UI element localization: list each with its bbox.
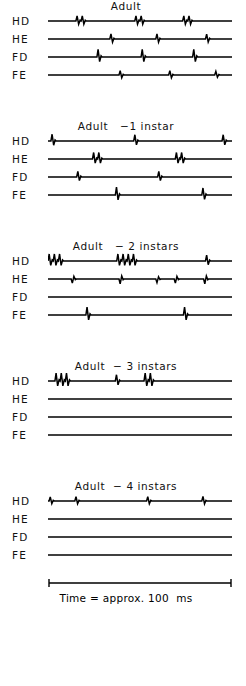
trace-row-fe: FE	[0, 306, 246, 324]
trace-waveform	[48, 426, 232, 444]
trace-waveform	[48, 48, 232, 66]
trace-label: HE	[12, 154, 29, 165]
trace-label: HE	[12, 34, 29, 45]
trace-row-fd: FD	[0, 528, 246, 546]
panel-2: Adult − 2 instarsHDHEFDFE	[0, 240, 246, 324]
trace-row-fe: FE	[0, 546, 246, 564]
trace-waveform	[48, 168, 232, 186]
trace-label: FD	[12, 292, 28, 303]
trace-group: HDHEFDFE	[0, 132, 246, 204]
panel-spacer	[0, 84, 246, 120]
trace-waveform	[48, 66, 232, 84]
trace-label: FD	[12, 172, 28, 183]
trace-waveform	[48, 390, 232, 408]
trace-row-hd: HD	[0, 132, 246, 150]
panel-title: Adult	[0, 0, 246, 12]
trace-group: HDHEFDFE	[0, 12, 246, 84]
trace-label: HD	[12, 16, 30, 27]
trace-row-hd: HD	[0, 252, 246, 270]
panel-spacer	[0, 204, 246, 240]
trace-row-he: HE	[0, 30, 246, 48]
trace-label: FD	[12, 412, 28, 423]
trace-waveform	[48, 288, 232, 306]
trace-label: FE	[12, 550, 27, 561]
trace-label: HE	[12, 514, 29, 525]
panel-1: Adult −1 instarHDHEFDFE	[0, 120, 246, 204]
trace-row-fd: FD	[0, 288, 246, 306]
trace-label: HE	[12, 394, 29, 405]
trace-row-hd: HD	[0, 372, 246, 390]
panel-spacer	[0, 444, 246, 480]
scalebar-bracket-icon	[48, 578, 232, 590]
panels-container: AdultHDHEFDFEAdult −1 instarHDHEFDFEAdul…	[0, 0, 246, 564]
scalebar-caption: Time = approx. 100 ms	[0, 592, 246, 604]
trace-row-fd: FD	[0, 168, 246, 186]
trace-waveform	[48, 306, 232, 324]
trace-label: FD	[12, 52, 28, 63]
trace-label: HD	[12, 496, 30, 507]
trace-label: HD	[12, 256, 30, 267]
trace-waveform	[48, 408, 232, 426]
trace-group: HDHEFDFE	[0, 252, 246, 324]
trace-row-he: HE	[0, 390, 246, 408]
trace-waveform	[48, 372, 232, 390]
trace-group: HDHEFDFE	[0, 372, 246, 444]
trace-row-he: HE	[0, 270, 246, 288]
trace-waveform	[48, 30, 232, 48]
trace-row-fe: FE	[0, 186, 246, 204]
trace-label: FE	[12, 190, 27, 201]
panel-title: Adult − 4 instars	[0, 480, 246, 492]
panel-3: Adult − 3 instarsHDHEFDFE	[0, 360, 246, 444]
trace-row-he: HE	[0, 510, 246, 528]
trace-row-fd: FD	[0, 408, 246, 426]
panel-title: Adult − 3 instars	[0, 360, 246, 372]
trace-row-fe: FE	[0, 426, 246, 444]
trace-waveform	[48, 252, 232, 270]
trace-waveform	[48, 528, 232, 546]
trace-label: HD	[12, 376, 30, 387]
trace-waveform	[48, 12, 232, 30]
trace-row-fe: FE	[0, 66, 246, 84]
trace-row-hd: HD	[0, 12, 246, 30]
trace-label: HE	[12, 274, 29, 285]
trace-label: FE	[12, 70, 27, 81]
trace-label: HD	[12, 136, 30, 147]
panel-title: Adult −1 instar	[0, 120, 246, 132]
trace-label: FE	[12, 310, 27, 321]
trace-row-fd: FD	[0, 48, 246, 66]
trace-waveform	[48, 270, 232, 288]
trace-label: FD	[12, 532, 28, 543]
trace-waveform	[48, 186, 232, 204]
trace-row-hd: HD	[0, 492, 246, 510]
panel-0: AdultHDHEFDFE	[0, 0, 246, 84]
trace-label: FE	[12, 430, 27, 441]
trace-row-he: HE	[0, 150, 246, 168]
trace-waveform	[48, 132, 232, 150]
panel-4: Adult − 4 instarsHDHEFDFE	[0, 480, 246, 564]
trace-waveform	[48, 510, 232, 528]
emg-recording-figure: AdultHDHEFDFEAdult −1 instarHDHEFDFEAdul…	[0, 0, 246, 686]
trace-waveform	[48, 492, 232, 510]
panel-spacer	[0, 324, 246, 360]
panel-title: Adult − 2 instars	[0, 240, 246, 252]
trace-waveform	[48, 150, 232, 168]
trace-group: HDHEFDFE	[0, 492, 246, 564]
trace-waveform	[48, 546, 232, 564]
